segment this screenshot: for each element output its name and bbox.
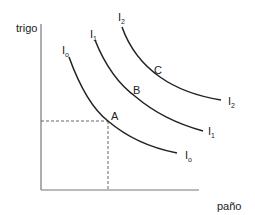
curve-I2-label-end: I2 bbox=[228, 95, 235, 109]
curve-I0-label-end: Io bbox=[185, 149, 192, 163]
y-axis-label: trigo bbox=[16, 22, 37, 34]
point-C-label: C bbox=[154, 64, 162, 76]
x-axis-label: paño bbox=[217, 200, 241, 212]
curve-I2-label-top: I2 bbox=[118, 11, 125, 25]
point-A-label: A bbox=[111, 110, 119, 122]
curve-I0-label-top: Io bbox=[62, 44, 69, 58]
point-B-label: B bbox=[133, 84, 140, 96]
indifference-curve-diagram: trigo paño Io I1 I2 Io I1 I2 A B C bbox=[0, 0, 255, 215]
curve-I1-label-top: I1 bbox=[90, 28, 97, 42]
curve-I1-label-end: I1 bbox=[208, 125, 215, 139]
